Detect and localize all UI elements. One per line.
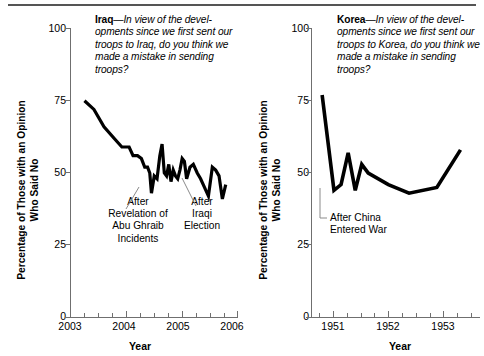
leader-abu-ghraib (126, 187, 139, 209)
chart-panel-iraq: Iraq—In view of the devel- opments since… (0, 0, 242, 356)
data-line-iraq (84, 101, 225, 199)
annotation-bracket-korea (320, 188, 327, 218)
chart-panel-korea: Korea—In view of the devel- opments sinc… (242, 0, 484, 356)
data-line-korea (322, 95, 460, 193)
figure-canvas: Iraq—In view of the devel- opments since… (0, 0, 484, 356)
leader-iraqi-election (182, 178, 196, 206)
plot-svg-iraq (0, 0, 242, 356)
plot-svg-korea (242, 0, 484, 356)
annotation-leaders-iraq (126, 178, 196, 209)
bracket-china-entered-war (320, 188, 327, 218)
